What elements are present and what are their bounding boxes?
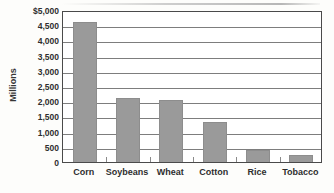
gridline	[63, 58, 321, 59]
x-axis-tick-labels: CornSoybeansWheatCottonRiceTobacco	[62, 167, 322, 183]
y-tick-label: 1,500	[38, 113, 59, 122]
y-tick-label: 1,000	[38, 128, 59, 137]
x-tick-label-soybeans: Soybeans	[106, 167, 149, 177]
y-tick-label: 0	[54, 159, 59, 168]
bar-chart-figure: Millions $5,0004,5004,0003,5003,0002,500…	[0, 0, 334, 193]
y-tick-label: $5,000	[33, 7, 59, 16]
x-tick-label-tobacco: Tobacco	[282, 167, 318, 177]
plot-area	[62, 11, 322, 163]
bar-wheat	[159, 100, 183, 162]
y-tick-label: 2,000	[38, 98, 59, 107]
gridline	[63, 27, 321, 28]
gridline	[63, 73, 321, 74]
y-tick-label: 500	[45, 143, 59, 152]
bar-rice	[246, 150, 270, 162]
axis-tick-mark	[236, 157, 237, 162]
x-tick-label-cotton: Cotton	[199, 167, 228, 177]
axis-tick-mark	[106, 157, 107, 162]
bar-cotton	[203, 122, 227, 162]
y-tick-label: 2,500	[38, 83, 59, 92]
scan-artifact-line	[62, 3, 320, 5]
x-tick-label-corn: Corn	[73, 167, 94, 177]
gridline	[63, 42, 321, 43]
y-tick-label: 4,000	[38, 37, 59, 46]
gridline	[63, 103, 321, 104]
y-tick-label: 3,000	[38, 67, 59, 76]
bar-tobacco	[289, 155, 313, 162]
y-axis-tick-labels: $5,0004,5004,0003,5003,0002,5002,0001,50…	[14, 11, 61, 163]
x-tick-label-wheat: Wheat	[157, 167, 184, 177]
axis-tick-mark	[150, 157, 151, 162]
y-tick-label: 3,500	[38, 52, 59, 61]
axis-tick-mark	[280, 157, 281, 162]
axis-tick-mark	[193, 157, 194, 162]
bar-soybeans	[116, 98, 140, 162]
y-tick-label: 4,500	[38, 22, 59, 31]
gridline	[63, 134, 321, 135]
gridline	[63, 88, 321, 89]
gridline	[63, 149, 321, 150]
x-tick-label-rice: Rice	[247, 167, 266, 177]
bar-corn	[73, 22, 97, 162]
gridline	[63, 118, 321, 119]
